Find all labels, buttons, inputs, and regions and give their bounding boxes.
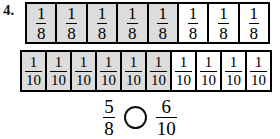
fraction-numerator: 1	[104, 55, 114, 71]
fraction-one-tenth: 1 10	[125, 55, 142, 88]
bar-cell: 1 10	[72, 52, 97, 90]
bar-cell: 1 8	[149, 4, 179, 42]
fraction-one-tenth: 1 10	[200, 55, 217, 88]
fraction-one-eighth: 1 8	[218, 5, 229, 42]
fraction-one-tenth: 1 10	[75, 55, 92, 88]
fraction-denominator: 10	[75, 71, 92, 88]
fraction-one-eighth: 1 8	[36, 5, 47, 42]
bar-cell: 1 8	[57, 4, 87, 42]
bar-cell: 1 10	[172, 52, 197, 90]
fraction-denominator: 10	[200, 71, 217, 88]
fraction-numerator: 1	[229, 55, 239, 71]
fraction-one-tenth: 1 10	[175, 55, 192, 88]
bar-cell: 1 8	[209, 4, 239, 42]
fraction-denominator: 10	[150, 71, 167, 88]
fraction-numerator: 1	[218, 5, 229, 23]
fraction-denominator: 8	[36, 23, 47, 42]
bar-cell: 1 10	[197, 52, 222, 90]
fraction-one-tenth: 1 10	[25, 55, 42, 88]
fraction-numerator: 1	[54, 55, 64, 71]
bar-cell: 1 10	[247, 52, 270, 90]
fraction-denominator: 10	[225, 71, 242, 88]
fraction-denominator: 10	[250, 71, 267, 88]
bar-cell: 1 8	[179, 4, 209, 42]
bar-cell: 1 10	[222, 52, 247, 90]
fraction-one-eighth: 1 8	[249, 5, 260, 42]
fraction-numerator: 1	[254, 55, 264, 71]
compare-circle-answer-blank[interactable]	[124, 106, 147, 129]
fraction-one-eighth: 1 8	[97, 5, 108, 42]
fraction-denominator: 10	[100, 71, 117, 88]
comparison-statement: 5 8 6 10	[0, 96, 280, 139]
fraction-one-tenth: 1 10	[250, 55, 267, 88]
fraction-denominator: 8	[66, 23, 77, 42]
fraction-denominator: 8	[127, 23, 138, 42]
fraction-numerator: 1	[129, 55, 139, 71]
fraction-numerator: 1	[249, 5, 260, 23]
fraction-numerator: 1	[36, 5, 47, 23]
fraction-numerator: 1	[188, 5, 199, 23]
fraction-one-eighth: 1 8	[127, 5, 138, 42]
fraction-denominator: 8	[188, 23, 199, 42]
fraction-numerator: 6	[161, 97, 173, 117]
fraction-one-tenth: 1 10	[50, 55, 67, 88]
right-fraction: 6 10	[156, 97, 177, 138]
fraction-numerator: 1	[97, 5, 108, 23]
worksheet-problem-4: 4. 1 8 1 8 1 8 1 8	[0, 0, 280, 139]
fraction-one-tenth: 1 10	[100, 55, 117, 88]
bar-cell: 1 8	[240, 4, 268, 42]
fraction-denominator: 10	[125, 71, 142, 88]
fraction-numerator: 1	[179, 55, 189, 71]
fraction-one-tenth: 1 10	[150, 55, 167, 88]
fraction-numerator: 1	[29, 55, 39, 71]
fraction-denominator: 8	[218, 23, 229, 42]
fraction-denominator: 10	[25, 71, 42, 88]
bar-cell: 1 8	[118, 4, 148, 42]
bar-cell: 1 10	[47, 52, 72, 90]
fraction-bar-tenths: 1 10 1 10 1 10 1 10 1 10	[20, 50, 272, 92]
fraction-denominator: 8	[249, 23, 260, 42]
bar-cell: 1 10	[97, 52, 122, 90]
left-fraction: 5 8	[103, 97, 115, 138]
bar-cell: 1 8	[27, 4, 57, 42]
fraction-denominator: 8	[157, 23, 168, 42]
fraction-one-tenth: 1 10	[225, 55, 242, 88]
fraction-denominator: 8	[103, 117, 115, 138]
bar-cell: 1 8	[88, 4, 118, 42]
bar-cell: 1 10	[22, 52, 47, 90]
fraction-numerator: 1	[127, 5, 138, 23]
bar-cell: 1 10	[147, 52, 172, 90]
fraction-one-eighth: 1 8	[157, 5, 168, 42]
fraction-numerator: 5	[103, 97, 115, 117]
fraction-numerator: 1	[154, 55, 164, 71]
fraction-numerator: 1	[66, 5, 77, 23]
fraction-bar-eighths: 1 8 1 8 1 8 1 8 1 8	[25, 2, 270, 44]
fraction-numerator: 1	[204, 55, 214, 71]
fraction-denominator: 10	[156, 117, 177, 138]
fraction-denominator: 8	[97, 23, 108, 42]
fraction-one-eighth: 1 8	[66, 5, 77, 42]
fraction-one-eighth: 1 8	[188, 5, 199, 42]
problem-number-label: 4.	[3, 3, 14, 18]
fraction-denominator: 10	[50, 71, 67, 88]
fraction-denominator: 10	[175, 71, 192, 88]
fraction-numerator: 1	[157, 5, 168, 23]
bar-cell: 1 10	[122, 52, 147, 90]
fraction-numerator: 1	[79, 55, 89, 71]
